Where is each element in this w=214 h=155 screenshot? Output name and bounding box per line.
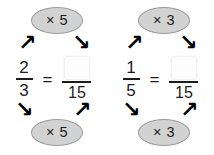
arrow-up-right-icon: ↗	[18, 32, 36, 54]
equation-row: 1 5 = 15	[107, 57, 214, 101]
equation-row: 2 3 = 15	[0, 57, 107, 101]
arrow-down-right-icon: ↘	[72, 32, 90, 54]
fraction-bar	[169, 81, 198, 83]
multiplier-badge-bottom-label: × 3	[153, 125, 175, 140]
fraction-bar	[123, 78, 140, 80]
multiplier-badge-bottom: × 5	[31, 119, 83, 146]
problem-1: × 5 ↗ ↘ 2 3 = 15 ↘ ↗ × 5	[0, 0, 107, 155]
arrow-down-right-icon: ↘	[15, 99, 33, 121]
target-fraction: 15	[169, 56, 198, 102]
answer-numerator-input[interactable]	[171, 56, 197, 80]
arrow-up-right-icon: ↗	[125, 32, 143, 54]
arrow-down-right-icon: ↘	[179, 32, 197, 54]
source-numerator: 1	[124, 58, 137, 77]
equivalent-fractions-worksheet: × 5 ↗ ↘ 2 3 = 15 ↘ ↗ × 5 × 3 ↗	[0, 0, 214, 155]
equals-sign: =	[150, 71, 160, 88]
source-fraction: 2 3	[16, 58, 33, 100]
target-fraction: 15	[62, 56, 91, 102]
problem-2: × 3 ↗ ↘ 1 5 = 15 ↘ ↗ × 3	[107, 0, 214, 155]
multiplier-badge-top-label: × 3	[153, 13, 175, 28]
equals-sign: =	[43, 71, 53, 88]
arrow-up-right-icon: ↗	[180, 99, 198, 121]
arrow-down-right-icon: ↘	[122, 99, 140, 121]
answer-numerator-input[interactable]	[64, 56, 90, 80]
fraction-bar	[62, 81, 91, 83]
source-numerator: 2	[17, 58, 30, 77]
multiplier-badge-top-label: × 5	[46, 13, 68, 28]
source-fraction: 1 5	[123, 58, 140, 100]
arrow-up-right-icon: ↗	[73, 99, 91, 121]
multiplier-badge-bottom: × 3	[138, 119, 190, 146]
multiplier-badge-bottom-label: × 5	[46, 125, 68, 140]
fraction-bar	[16, 78, 33, 80]
